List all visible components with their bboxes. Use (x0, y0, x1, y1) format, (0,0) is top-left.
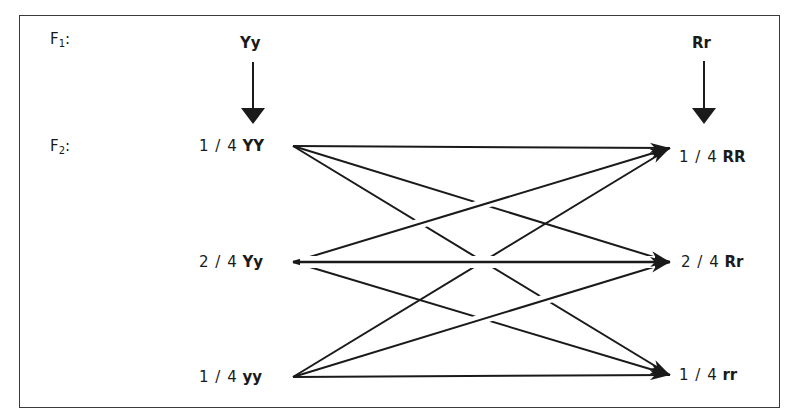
f2-left-item-yy: 1 / 4 yy (199, 368, 262, 386)
genotype: RR (722, 148, 745, 166)
f1-to-f2-left-arrow (241, 62, 265, 124)
f2-right-item-rr: 1 / 4 rr (679, 366, 737, 384)
f1-generation-label: F1: (50, 30, 70, 53)
f2-left-item-Yy: 2 / 4 Yy (199, 253, 263, 271)
f1-to-f2-right-arrow (692, 61, 716, 124)
genotype: Rr (724, 253, 743, 271)
fraction: 1 / 4 (679, 366, 718, 384)
fraction: 1 / 4 (199, 368, 238, 386)
f1-right-parent: Rr (692, 34, 711, 52)
fraction: 1 / 4 (199, 137, 238, 155)
fraction: 2 / 4 (199, 253, 238, 271)
fraction: 1 / 4 (679, 148, 718, 166)
f1-left-parent: Yy (240, 34, 261, 52)
f1-letter: F (50, 30, 59, 48)
f2-left-item-YY: 1 / 4 YY (199, 137, 264, 155)
f2-colon: : (65, 137, 70, 155)
f2-right-item-Rr: 2 / 4 Rr (681, 253, 743, 271)
genotype: rr (722, 366, 737, 384)
arrow-yy-rr (293, 375, 670, 377)
fraction: 2 / 4 (681, 253, 720, 271)
arrow-YY-RR (293, 146, 670, 148)
genotype: Yy (242, 253, 263, 271)
f2-letter: F (50, 137, 59, 155)
f1-colon: : (65, 30, 70, 48)
f2-generation-label: F2: (50, 137, 70, 160)
f2-right-item-RR: 1 / 4 RR (679, 148, 746, 166)
cross-arrows (0, 0, 791, 419)
genotype: yy (242, 368, 262, 386)
genotype: YY (242, 137, 264, 155)
